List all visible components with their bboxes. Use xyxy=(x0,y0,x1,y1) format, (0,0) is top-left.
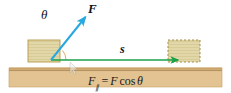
work-equation: F∥=Fcosθ xyxy=(88,75,143,90)
force-vector-arrow xyxy=(51,17,86,60)
angle-arc xyxy=(63,51,66,61)
displacement-vector-label: s xyxy=(120,43,125,55)
physics-figure: F θ s F∥=Fcosθ xyxy=(0,0,231,93)
equation-angle: θ xyxy=(136,74,143,88)
block-initial-position xyxy=(28,40,60,62)
block-final-position xyxy=(168,40,200,62)
equation-cosine: cos xyxy=(118,74,136,88)
equation-lhs-subscript: ∥ xyxy=(95,83,99,92)
force-vector-label: F xyxy=(88,2,97,15)
angle-label: θ xyxy=(41,8,47,21)
equation-equals: = xyxy=(99,74,110,88)
